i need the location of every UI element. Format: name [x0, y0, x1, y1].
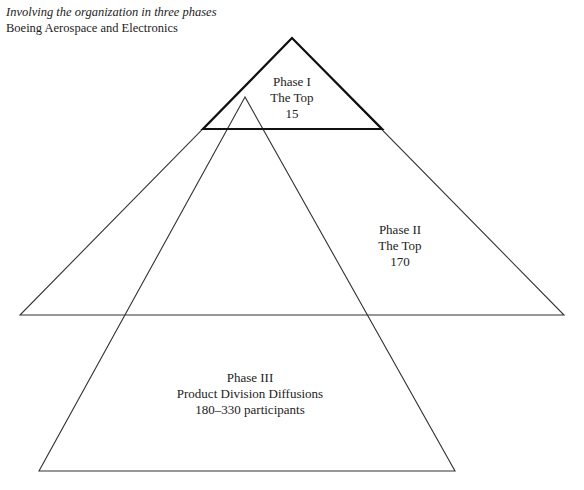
phase-2-label: Phase II The Top 170 — [350, 222, 450, 270]
phase-3-group: Product Division Diffusions — [160, 386, 340, 402]
phase-1-group: The Top — [242, 90, 342, 106]
phase-2-group: The Top — [350, 238, 450, 254]
phase-3-name: Phase III — [160, 370, 340, 386]
phase-1-count: 15 — [242, 106, 342, 122]
phase-2-name: Phase II — [350, 222, 450, 238]
phase-3-count: 180–330 participants — [160, 402, 340, 418]
phase-1-name: Phase I — [242, 74, 342, 90]
phase-1-label: Phase I The Top 15 — [242, 74, 342, 122]
phase-2-count: 170 — [350, 254, 450, 270]
phase-3-label: Phase III Product Division Diffusions 18… — [160, 370, 340, 418]
